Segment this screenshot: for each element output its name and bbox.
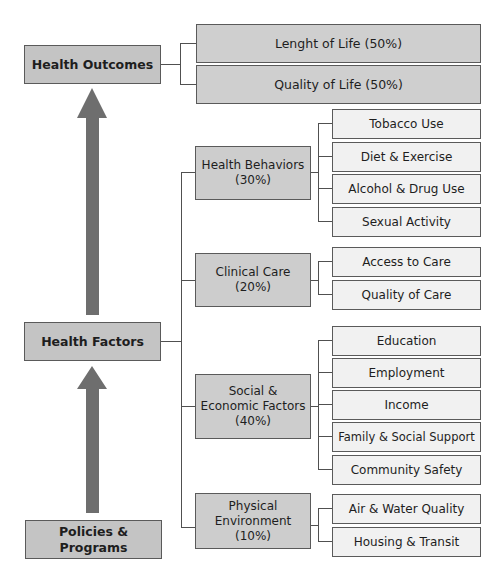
leaf-access-to-care: Access to Care — [332, 247, 481, 277]
category-label: Economic Factors — [201, 399, 306, 414]
category-social-economic: Social & Economic Factors (40%) — [195, 374, 311, 439]
leaf-label: Diet & Exercise — [361, 150, 453, 165]
leaf-label: Sexual Activity — [362, 215, 451, 230]
connector — [180, 43, 196, 44]
category-weight: (30%) — [235, 173, 271, 188]
health-factors-label: Health Factors — [41, 334, 144, 350]
leaf-employment: Employment — [332, 358, 481, 388]
policies-programs-label: Policies & Programs — [26, 524, 161, 555]
connector — [318, 261, 332, 262]
connector — [318, 261, 319, 295]
connector — [318, 123, 319, 222]
leaf-family-social-support: Family & Social Support — [332, 422, 481, 452]
connector — [318, 541, 332, 542]
leaf-sexual-activity: Sexual Activity — [332, 207, 481, 237]
connector — [181, 280, 195, 281]
connector — [318, 508, 319, 542]
length-of-life-label: Lenght of Life (50%) — [275, 36, 402, 52]
leaf-label: Air & Water Quality — [349, 502, 465, 517]
leaf-income: Income — [332, 390, 481, 420]
connector — [318, 188, 332, 189]
leaf-label: Family & Social Support — [338, 430, 475, 444]
connector — [318, 221, 332, 222]
leaf-label: Income — [384, 398, 428, 413]
leaf-label: Housing & Transit — [354, 535, 460, 550]
arrow-up-icon — [77, 88, 107, 315]
leaf-alcohol-drug-use: Alcohol & Drug Use — [332, 174, 481, 204]
category-clinical-care: Clinical Care (20%) — [195, 253, 311, 307]
leaf-label: Community Safety — [351, 463, 463, 478]
category-physical-environment: Physical Environment (10%) — [195, 493, 311, 549]
quality-of-life-label: Quality of Life (50%) — [274, 77, 403, 93]
health-factors-box: Health Factors — [24, 322, 161, 361]
connector — [180, 43, 181, 85]
connector — [318, 436, 332, 437]
category-weight: (20%) — [235, 280, 271, 295]
leaf-diet-exercise: Diet & Exercise — [332, 142, 481, 172]
category-weight: (40%) — [235, 414, 271, 429]
leaf-label: Alcohol & Drug Use — [348, 182, 464, 197]
leaf-quality-of-care: Quality of Care — [332, 280, 481, 310]
connector — [181, 527, 195, 528]
connector — [318, 469, 332, 470]
category-health-behaviors: Health Behaviors (30%) — [195, 146, 311, 200]
connector — [180, 84, 196, 85]
quality-of-life-box: Quality of Life (50%) — [196, 65, 481, 104]
leaf-air-water-quality: Air & Water Quality — [332, 494, 481, 524]
connector — [318, 340, 332, 341]
arrow-up-icon — [77, 366, 107, 513]
connector — [181, 172, 195, 173]
connector — [161, 64, 181, 65]
connector — [318, 372, 332, 373]
category-label: Clinical Care — [216, 265, 291, 280]
leaf-housing-transit: Housing & Transit — [332, 527, 481, 557]
leaf-community-safety: Community Safety — [332, 455, 481, 485]
connector — [181, 406, 195, 407]
policies-programs-box: Policies & Programs — [25, 520, 162, 559]
connector — [318, 404, 332, 405]
leaf-label: Tobacco Use — [369, 117, 443, 132]
connector — [318, 156, 332, 157]
connector — [181, 172, 182, 527]
health-outcomes-box: Health Outcomes — [24, 45, 161, 84]
leaf-tobacco-use: Tobacco Use — [332, 109, 481, 139]
category-label: Social & — [229, 384, 278, 399]
connector — [318, 340, 319, 470]
connector — [318, 123, 332, 124]
category-label: Health Behaviors — [202, 158, 305, 173]
leaf-label: Employment — [368, 366, 444, 381]
leaf-label: Quality of Care — [362, 288, 452, 303]
leaf-education: Education — [332, 326, 481, 356]
category-label: Physical — [229, 499, 278, 514]
category-weight: (10%) — [235, 529, 271, 544]
health-outcomes-label: Health Outcomes — [32, 57, 153, 73]
connector — [161, 341, 182, 342]
connector — [318, 294, 332, 295]
leaf-label: Education — [377, 334, 437, 349]
connector — [318, 508, 332, 509]
category-label: Environment — [215, 514, 292, 529]
length-of-life-box: Lenght of Life (50%) — [196, 24, 481, 63]
leaf-label: Access to Care — [362, 255, 451, 270]
